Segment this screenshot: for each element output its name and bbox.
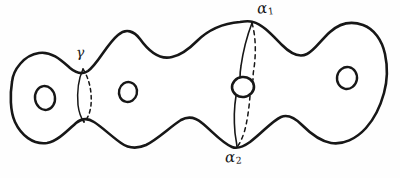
surface-diagram bbox=[0, 0, 400, 178]
label-alpha-1-subscript: 1 bbox=[267, 5, 274, 17]
label-gamma-base: γ bbox=[76, 44, 85, 60]
figure-canvas: α1 α2 γ bbox=[0, 0, 400, 178]
hole-3 bbox=[231, 76, 255, 98]
label-alpha-1-base: α bbox=[256, 0, 268, 18]
label-alpha-2: α2 bbox=[224, 149, 242, 165]
label-gamma: γ bbox=[76, 45, 85, 59]
label-alpha-2-subscript: 2 bbox=[235, 154, 242, 165]
surface-outline bbox=[11, 21, 387, 148]
label-alpha-1: α1 bbox=[256, 0, 274, 17]
label-alpha-2-base: α bbox=[224, 148, 235, 167]
